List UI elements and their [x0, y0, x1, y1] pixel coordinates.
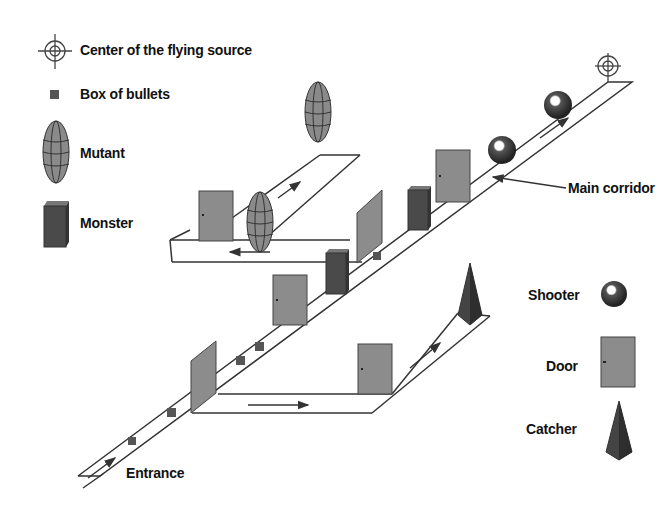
monster — [408, 186, 431, 230]
legend-label-shooter: Shooter — [528, 287, 580, 303]
legend-label-mutant: Mutant — [80, 145, 125, 161]
legend-pyramid-icon — [606, 401, 632, 460]
legend-box-icon — [50, 90, 59, 99]
catcher — [458, 263, 482, 325]
legend-cuboid-icon — [44, 201, 69, 247]
crosshair-icon — [595, 53, 621, 82]
door — [436, 150, 470, 202]
bullet-box — [373, 252, 381, 260]
legend-sphere-icon — [601, 281, 627, 307]
main-corridor-pointer — [493, 177, 566, 188]
door — [199, 191, 233, 241]
mutant — [305, 82, 331, 142]
door-slanted — [191, 341, 216, 413]
bullet-box — [255, 342, 264, 351]
mutant-room-arrow-up — [278, 182, 300, 198]
legend-ellipsoid-icon — [43, 121, 69, 183]
corridor-arrow-upper — [540, 118, 568, 138]
catcher-room-arrow-up — [410, 343, 440, 368]
door — [358, 344, 392, 394]
legend-label-box-of-bullets: Box of bullets — [80, 86, 170, 102]
door — [273, 275, 307, 325]
entrance-label: Entrance — [126, 465, 184, 481]
legend-label-flying-source: Center of the flying source — [80, 42, 252, 58]
shooter — [488, 136, 516, 164]
bullet-box — [167, 408, 176, 417]
legend-label-door: Door — [546, 358, 578, 374]
monster — [326, 249, 349, 294]
level-map-diagram — [0, 0, 670, 517]
main-corridor — [78, 82, 632, 476]
legend-door-icon — [601, 337, 635, 387]
main-corridor-label: Main corridor — [568, 180, 655, 196]
bullet-box — [236, 356, 245, 365]
legend-crosshair-icon — [38, 34, 72, 69]
bullet-box — [128, 437, 136, 445]
legend-label-catcher: Catcher — [526, 421, 577, 437]
legend-label-monster: Monster — [80, 215, 133, 231]
shooter — [544, 91, 572, 119]
mutant — [247, 192, 273, 252]
